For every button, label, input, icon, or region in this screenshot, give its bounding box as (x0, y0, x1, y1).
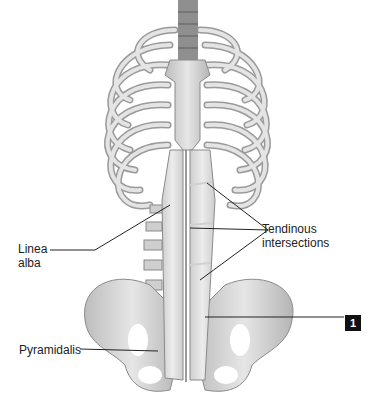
linea-alba-label: Linea alba (18, 242, 47, 270)
rectus-abdominis-left (162, 150, 183, 380)
cervical-spine (178, 0, 198, 60)
linea-alba-label-line1: Linea (18, 242, 47, 256)
sternum (165, 60, 210, 150)
pyramidalis-label: Pyramidalis (19, 343, 81, 357)
tendinous-label-line2: intersections (262, 236, 329, 250)
lumbar-spine (144, 205, 164, 290)
tendinous-label-line1: Tendinous (262, 222, 329, 236)
linea-alba-label-line2: alba (18, 256, 47, 270)
tendinous-intersections-label: Tendinous intersections (262, 222, 329, 250)
numbered-callout-badge: 1 (345, 315, 361, 331)
